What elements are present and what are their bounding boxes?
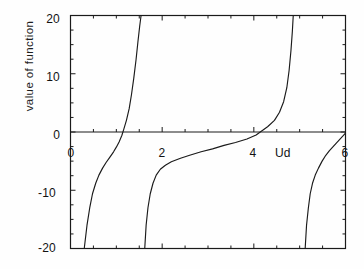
- y-tick-label-10: 10: [26, 70, 60, 84]
- chart-figure: value of function 20 10 0 -10 -20 0 2 4 …: [0, 0, 364, 269]
- x-tick-label-2: 2: [150, 146, 174, 160]
- x-tick-label-0: 0: [59, 146, 83, 160]
- x-tick-label-4: 4: [241, 146, 265, 160]
- x-tick-label-6: 6: [333, 146, 357, 160]
- y-tick-label-minus-20: -20: [22, 241, 56, 255]
- y-tick-label-minus-10: -10: [22, 186, 56, 200]
- y-tick-label-20: 20: [26, 12, 60, 26]
- x-axis-label: Ud: [275, 146, 291, 160]
- y-tick-label-0: 0: [26, 128, 60, 142]
